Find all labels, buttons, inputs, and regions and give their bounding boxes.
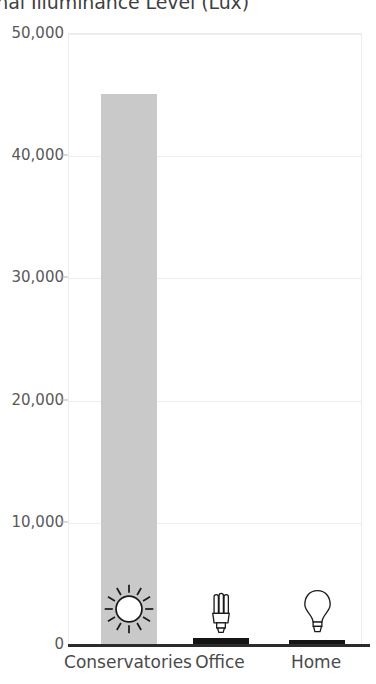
y-axis-tick-label: 0 [0, 635, 64, 653]
y-axis-tick-label: 20,000 [0, 391, 64, 409]
x-axis-category-label: Office [195, 652, 245, 672]
cfl-bulb-icon [208, 588, 234, 640]
illuminance-bar-chart: ternal Illuminance Level (Lux) 50,00040,… [0, 0, 376, 684]
incandescent-bulb-icon [302, 588, 333, 640]
x-axis-category-label: Home [291, 652, 341, 672]
x-axis-baseline [68, 644, 370, 647]
sun-icon [102, 582, 156, 640]
y-axis-tick-mark [60, 521, 68, 522]
y-axis-tick-label: 10,000 [0, 513, 64, 531]
y-axis-tick-label: 50,000 [0, 24, 64, 42]
y-axis-tick-mark [60, 399, 68, 400]
x-axis-category-label: Conservatories [64, 652, 192, 672]
plot-area [68, 33, 362, 644]
y-axis-tick-mark [60, 155, 68, 156]
chart-title: ternal Illuminance Level (Lux) [0, 0, 376, 13]
gridline [69, 34, 361, 35]
y-axis-tick-mark [60, 277, 68, 278]
y-axis-tick-label: 40,000 [0, 146, 64, 164]
bar[interactable] [101, 94, 157, 644]
y-axis-tick-label: 30,000 [0, 268, 64, 286]
